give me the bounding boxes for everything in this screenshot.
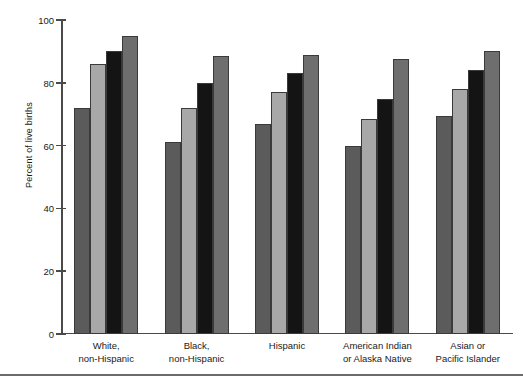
y-tick-60 [56,145,66,147]
y-tick-0 [56,333,66,335]
bar-2-2[interactable] [181,108,197,334]
bar-3-2[interactable] [271,92,287,334]
bar-1-2[interactable] [90,64,106,334]
bar-2-3[interactable] [197,83,213,334]
y-tick-label-0: 0 [49,329,54,340]
bar-5-2[interactable] [452,89,468,334]
bar-3-1[interactable] [255,124,271,334]
y-tick-20 [56,270,66,272]
bar-group-5 [436,20,500,334]
x-category-label-2-line-2: non-Hispanic [137,353,255,366]
bar-2-4[interactable] [213,56,229,334]
bar-group-2 [165,20,229,334]
plot-area: 020406080100 [61,20,513,334]
x-category-label-5-line-1: Asian or [409,340,523,353]
y-tick-label-80: 80 [43,77,54,88]
bar-5-4[interactable] [484,51,500,334]
y-tick-label-20: 20 [43,266,54,277]
bottom-divider [0,374,523,376]
bar-4-4[interactable] [393,59,409,334]
y-tick-label-40: 40 [43,203,54,214]
x-category-label-5: Asian orPacific Islander [409,340,523,365]
bar-2-1[interactable] [165,142,181,334]
y-axis-title: Percent of live births [24,60,34,230]
bar-3-4[interactable] [303,55,319,334]
x-category-label-5-line-2: Pacific Islander [409,353,523,366]
y-tick-80 [56,82,66,84]
bar-1-3[interactable] [106,51,122,334]
y-tick-40 [56,208,66,210]
bar-1-4[interactable] [122,36,138,334]
bar-1-1[interactable] [74,108,90,334]
y-axis-line [61,20,63,334]
bar-4-3[interactable] [377,99,393,335]
bar-4-2[interactable] [361,119,377,334]
bar-group-1 [74,20,138,334]
bar-4-1[interactable] [345,146,361,334]
y-tick-label-100: 100 [38,15,54,26]
bar-chart-figure: Percent of live births 020406080100 Whit… [0,0,523,382]
bar-5-1[interactable] [436,116,452,334]
y-tick-100 [56,19,66,21]
y-tick-label-60: 60 [43,140,54,151]
bar-5-3[interactable] [468,70,484,334]
bar-group-3 [255,20,319,334]
bar-3-3[interactable] [287,73,303,334]
bar-group-4 [345,20,409,334]
